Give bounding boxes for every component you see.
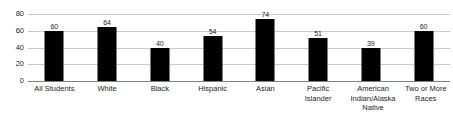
y-axis: 80 60 40 20 0 <box>0 14 24 81</box>
bar-asian <box>256 19 275 81</box>
x-tick-label-all-students: All Students <box>28 84 81 94</box>
bar-white <box>98 27 117 81</box>
bar-black <box>150 48 169 82</box>
bar-all-students <box>45 31 64 81</box>
y-tick-label: 40 <box>2 44 24 52</box>
y-tick-label: 20 <box>2 61 24 69</box>
x-axis: All Students White Black Hispanic Asian … <box>28 84 450 126</box>
bar-slot: 54 <box>186 14 239 81</box>
bar-slot: 74 <box>239 14 292 81</box>
bar-value-label: 60 <box>420 23 428 30</box>
x-tick-label-black: Black <box>134 84 187 94</box>
x-tick-label-white: White <box>81 84 134 94</box>
bar-chart: 80 60 40 20 0 60 64 40 54 74 <box>0 0 453 126</box>
x-axis-baseline <box>28 81 450 82</box>
bar-slot: 64 <box>81 14 134 81</box>
x-tick-label-american-indian-alaska-native: American Indian/Alaska Native <box>340 84 405 113</box>
x-tick-label-asian: Asian <box>239 84 292 94</box>
bar-value-label: 51 <box>314 30 322 37</box>
y-tick-label: 60 <box>2 27 24 35</box>
bar-slot: 60 <box>397 14 450 81</box>
bar-value-label: 64 <box>103 19 111 26</box>
bar-value-label: 60 <box>50 23 58 30</box>
bar-american-indian-alaska-native <box>361 48 380 81</box>
bar-value-label: 40 <box>156 40 164 47</box>
x-tick-label-pacific-islander: Pacific Islander <box>292 84 345 103</box>
bar-slot: 40 <box>134 14 187 81</box>
bar-value-label: 39 <box>367 40 375 47</box>
bar-two-or-more-races <box>414 31 433 81</box>
bar-slot: 39 <box>345 14 398 81</box>
y-tick-label: 80 <box>2 10 24 18</box>
bar-hispanic <box>203 36 222 81</box>
bar-value-label: 54 <box>209 28 217 35</box>
y-tick-label: 0 <box>2 77 24 85</box>
bar-slot: 51 <box>292 14 345 81</box>
bar-value-label: 74 <box>261 11 269 18</box>
bar-slot: 60 <box>28 14 81 81</box>
bar-pacific-islander <box>309 38 328 81</box>
x-tick-label-two-or-more-races: Two or More Races <box>399 84 452 103</box>
bars-layer: 60 64 40 54 74 51 39 60 <box>28 14 450 81</box>
x-tick-label-hispanic: Hispanic <box>186 84 239 94</box>
